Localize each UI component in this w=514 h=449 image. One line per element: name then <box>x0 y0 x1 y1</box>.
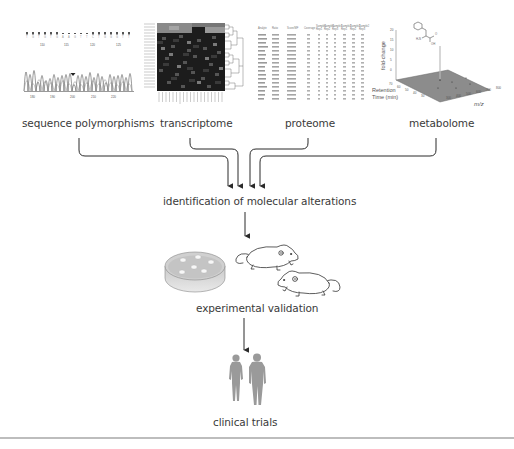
human-figures-icon <box>223 353 273 413</box>
connector-proteome <box>250 138 308 186</box>
step-validation: experimental validation <box>196 302 318 314</box>
connector-metabolome <box>260 138 436 186</box>
connector-sequence <box>79 138 228 186</box>
step-clinical-trials: clinical trials <box>213 416 277 428</box>
connector-transcriptome <box>190 138 238 186</box>
step-identification: identification of molecular alterations <box>163 195 356 207</box>
bottom-divider <box>0 437 514 439</box>
petri-dish-icon <box>163 248 227 296</box>
